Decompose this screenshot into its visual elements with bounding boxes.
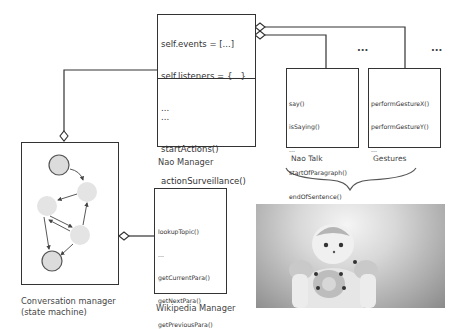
- nao-talk-label: Nao Talk: [291, 154, 323, 163]
- conversation-manager-sublabel: (state machine): [21, 307, 87, 317]
- method: ...: [158, 251, 213, 259]
- robot-icon: [256, 204, 445, 308]
- method: startActions(): [161, 144, 246, 155]
- method: actionSurveillance(): [161, 176, 246, 187]
- nao-manager-box: self.events = [...] self.listeners = {..…: [157, 14, 256, 147]
- method: endOfSentence(): [289, 193, 347, 201]
- method: getCurrentPara(): [158, 274, 213, 282]
- gestures-label: Gestures: [373, 154, 406, 163]
- state-machine-graph: [22, 143, 120, 286]
- aggregation-diamond-icon: [119, 232, 129, 240]
- method: ...: [371, 146, 429, 154]
- method: isSaying(): [289, 123, 347, 131]
- aggregation-diamond-icon: [255, 23, 265, 31]
- method: performGestureX(): [371, 100, 429, 108]
- ellipsis: ...: [431, 42, 442, 53]
- gestures-box: performGestureX() performGestureY() ...: [368, 68, 441, 148]
- start-state-icon: [49, 155, 69, 175]
- nao-manager-label: Nao Manager: [158, 157, 213, 167]
- state-node-icon: [70, 225, 90, 245]
- conversation-manager-label: Conversation manager: [21, 296, 116, 306]
- nao-talk-box: say() isSaying() ... startOfParagraph() …: [286, 68, 359, 148]
- aggregation-diamond-icon: [60, 131, 68, 141]
- method: performGestureY(): [371, 123, 429, 131]
- method: ...: [289, 146, 347, 154]
- attribute: self.events = [...]: [161, 39, 246, 50]
- state-node-icon: [77, 182, 97, 202]
- aggregation-diamond-icon: [255, 31, 265, 39]
- method: getPreviousPara(): [158, 321, 213, 329]
- nao-robot-photo: [256, 204, 445, 308]
- wikipedia-manager-box: lookupTopic() ... getCurrentPara() getNe…: [154, 188, 227, 294]
- method: startOfParagraph(): [289, 169, 347, 177]
- end-state-icon: [42, 251, 62, 271]
- wikipedia-manager-label: Wikipedia Manager: [156, 303, 235, 313]
- compartment-divider: [158, 78, 255, 79]
- state-node-icon: [37, 196, 57, 216]
- method: say(): [289, 100, 347, 108]
- attribute: self.listeners = {...}: [161, 71, 246, 82]
- method: lookupTopic(): [158, 228, 213, 236]
- method: ...: [161, 112, 246, 123]
- conversation-manager-box: [21, 142, 119, 285]
- ellipsis: ...: [357, 42, 368, 53]
